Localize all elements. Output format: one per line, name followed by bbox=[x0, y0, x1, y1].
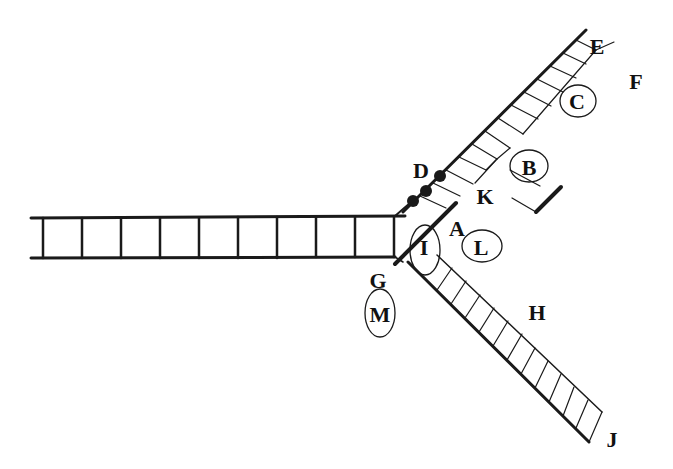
label-g: G bbox=[369, 268, 386, 293]
y-structure-diagram: A B C D E F G H I J K L M bbox=[0, 0, 673, 469]
label-l: L bbox=[474, 235, 489, 260]
label-c: C bbox=[569, 89, 585, 114]
left-horizontal-ladder bbox=[31, 203, 410, 262]
label-h: H bbox=[528, 300, 545, 325]
label-j: J bbox=[607, 427, 618, 452]
dot bbox=[434, 170, 446, 182]
label-i: I bbox=[420, 235, 429, 260]
label-d: D bbox=[413, 158, 429, 183]
label-m: M bbox=[370, 302, 391, 327]
lower-right-hatched-arm bbox=[408, 255, 602, 442]
label-b: B bbox=[522, 155, 537, 180]
label-f: F bbox=[629, 69, 642, 94]
label-k: K bbox=[476, 184, 493, 209]
label-e: E bbox=[590, 34, 605, 59]
upper-right-arm bbox=[395, 30, 614, 264]
diagram-canvas: A B C D E F G H I J K L M bbox=[0, 0, 673, 469]
label-a: A bbox=[449, 216, 465, 241]
dot bbox=[420, 185, 432, 197]
dot bbox=[407, 195, 419, 207]
